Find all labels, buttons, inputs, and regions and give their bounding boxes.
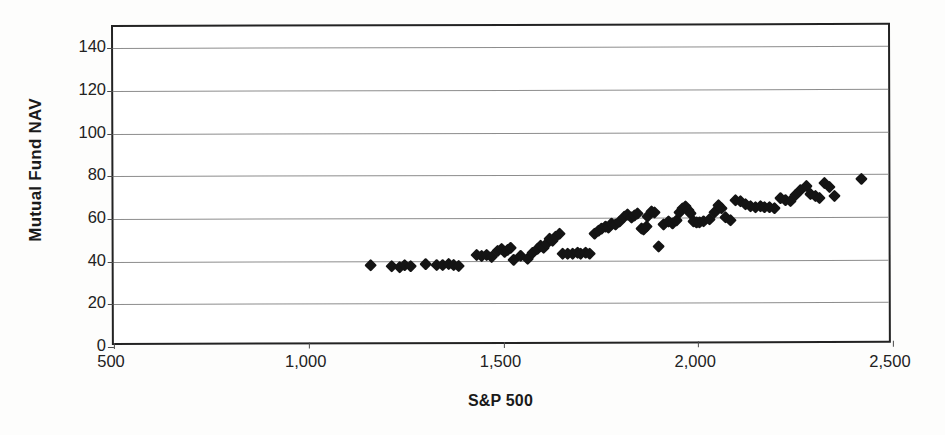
x-tickmark (114, 343, 115, 349)
x-tickmark (698, 341, 699, 347)
x-tickmark (893, 341, 894, 347)
data-point (364, 259, 377, 272)
y-tick-label: 80 (60, 166, 106, 183)
y-tick-label: 20 (60, 294, 106, 311)
x-tickmark (503, 342, 504, 348)
x-tick-label: 2,500 (869, 352, 910, 371)
data-markers (113, 25, 889, 343)
x-axis-tick-labels: 5001,0001,5002,0002,500 (0, 352, 945, 382)
plot-area (111, 23, 891, 345)
x-tick-label: 1,000 (285, 352, 326, 371)
x-axis-title: S&P 500 (111, 392, 890, 410)
scatter-chart: Mutual Fund NAV 020406080100120140 5001,… (0, 0, 945, 435)
y-tick-label: 40 (60, 252, 106, 269)
x-tick-label: 1,500 (480, 352, 521, 371)
y-tick-label: 60 (60, 209, 106, 226)
data-point (855, 172, 868, 185)
y-tick-label: 120 (60, 81, 106, 98)
y-tick-label: 140 (60, 38, 106, 55)
x-tick-label: 2,000 (675, 352, 716, 371)
x-tickmark (309, 342, 310, 348)
data-point (653, 240, 666, 253)
x-tick-label: 500 (97, 352, 125, 371)
y-tick-label: 100 (60, 124, 106, 141)
y-axis-title: Mutual Fund NAV (26, 70, 46, 270)
